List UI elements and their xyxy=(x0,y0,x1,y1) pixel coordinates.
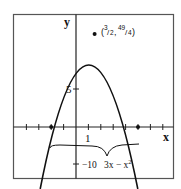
y-tick-label-5: 5 xyxy=(66,83,72,95)
parabola-chart: y x 1 5 −10 3x − x2 ( 3 / 2 , 49 / 4 ) xyxy=(0,0,181,189)
root-point-right xyxy=(136,125,140,129)
vertex-close: ) xyxy=(132,27,135,37)
x-axis-label: x xyxy=(163,130,169,144)
root-point-left xyxy=(49,125,53,129)
vertex-point xyxy=(93,32,97,36)
plot-frame xyxy=(14,15,174,179)
x-tick-label-1: 1 xyxy=(85,132,91,144)
brace-text-sup: 2 xyxy=(128,158,131,165)
vertex-comma: , xyxy=(114,27,117,37)
brace-text-main: 3x − x xyxy=(104,160,129,170)
y-axis-label: y xyxy=(64,15,70,29)
brace-text: 3x − x2 xyxy=(104,158,132,170)
brace-annotation xyxy=(50,144,139,156)
y-tick-label-neg10: −10 xyxy=(82,160,97,170)
vertex-label: ( 3 / 2 , 49 / 4 ) xyxy=(101,24,135,37)
